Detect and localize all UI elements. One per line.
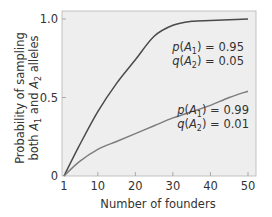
y-tick-label: 0 (51, 169, 58, 183)
x-tick-label: 10 (90, 179, 105, 193)
annotation-q001: q(A2) = 0.01 (177, 117, 249, 133)
y-tick-label: 0.5 (40, 91, 58, 105)
annotation-q005: q(A2) = 0.05 (172, 54, 244, 70)
y-axis-label-line1: Probability of sampling (13, 32, 27, 164)
x-tick-label: 20 (128, 179, 143, 193)
x-tick-label: 1 (60, 179, 67, 193)
x-axis-label: Number of founders (100, 197, 215, 211)
x-tick-label: 30 (166, 179, 181, 193)
plot-area (62, 11, 256, 176)
x-tick-label: 50 (241, 179, 256, 193)
chart: 1102030405000.51.0 Probability of sampli… (0, 0, 272, 217)
y-axis-label-line2: both A1 and A2 alleles (27, 35, 43, 160)
y-tick-label: 1.0 (40, 12, 58, 26)
x-tick-label: 40 (203, 179, 218, 193)
